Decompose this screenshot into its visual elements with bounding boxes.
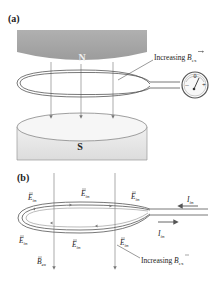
i-in-label-bottom: Iin: [157, 229, 165, 239]
e-in-label-top-left: Ein: [27, 193, 37, 203]
increasing-b-label-b: Increasing Bex: [141, 256, 184, 266]
panel-a-label: (a): [8, 13, 20, 25]
faraday-induction-figure: (a) N S Increasing Bex: [0, 0, 222, 287]
north-magnet: N: [17, 30, 147, 63]
meter-zero-label: 0: [194, 73, 197, 79]
south-magnet: S: [17, 113, 147, 160]
e-vector-arrows: [20, 189, 136, 240]
current-indicators: Iin Iin: [157, 195, 198, 239]
e-in-label-bottom-center: Ein: [71, 240, 81, 250]
b-ex-label: Bex: [37, 257, 47, 267]
meter-plus-label: +: [202, 81, 206, 89]
south-label: S: [77, 141, 83, 152]
e-in-label-top-right: Ein: [130, 192, 140, 202]
e-in-label-top-center: Ein: [80, 189, 90, 199]
galvanometer: 0 – +: [182, 72, 208, 98]
wire-loop-a: [17, 70, 180, 97]
meter-minus-label: –: [184, 81, 189, 89]
i-in-label-top: Iin: [186, 195, 194, 205]
e-in-label-bottom-right: Ein: [119, 238, 129, 248]
increasing-b-label-a: Increasing Bex: [154, 53, 197, 63]
north-label: N: [78, 52, 86, 63]
field-lines-b: [54, 173, 115, 268]
panel-b-label: (b): [17, 172, 29, 184]
panel-a: (a) N S Increasing Bex: [8, 13, 208, 160]
panel-b: (b) Ein Ein Ein Ein Ein: [17, 172, 208, 268]
leader-line-a: [118, 60, 153, 80]
leader-line-b: [117, 245, 140, 258]
e-in-labels: Ein Ein Ein Ein Ein Ein: [18, 189, 140, 250]
wire-loop-b: [18, 202, 208, 233]
e-in-label-bottom-left: Ein: [18, 236, 28, 246]
